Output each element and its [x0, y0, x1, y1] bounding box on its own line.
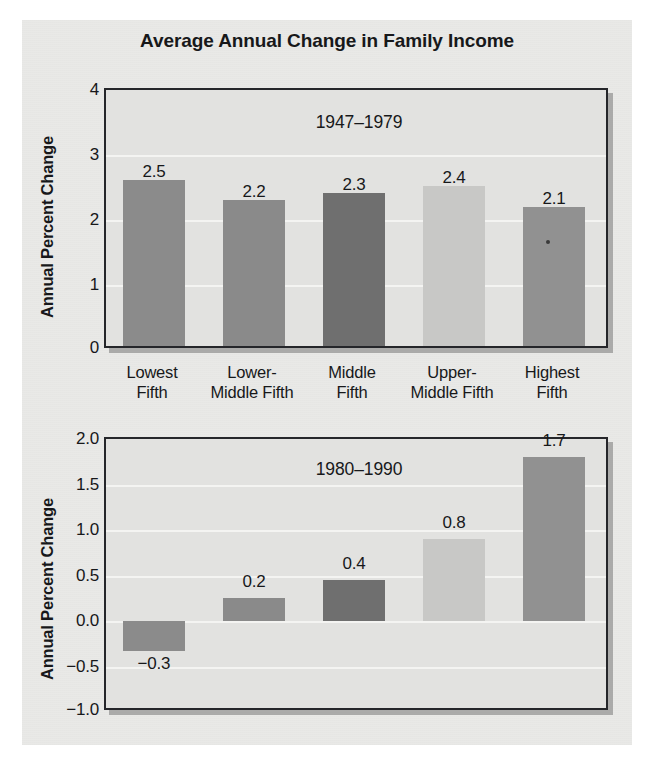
bar-highest-fifth	[523, 207, 585, 346]
category-line-1: Highest	[525, 362, 580, 382]
bar-middle-fifth	[323, 193, 385, 346]
bar-value-middle-fifth: 2.3	[342, 175, 365, 195]
category-line-1: Lowest	[126, 362, 177, 382]
y-tick-bottom-0-0: 0.0	[76, 611, 99, 631]
category-line-1: Middle	[328, 362, 375, 382]
category-line-2: Fifth	[126, 382, 177, 402]
chart-subtitle-top: 1947–1979	[316, 112, 403, 133]
y-tick-bottom-minus-1-0: −1.0	[66, 700, 99, 720]
category-line-2: Middle Fifth	[211, 382, 294, 402]
y-tick-bottom-2-0: 2.0	[76, 429, 99, 449]
y-tick-top-2: 2	[90, 210, 99, 230]
y-tick-top-0: 0	[90, 338, 99, 358]
y-tick-top-3: 3	[90, 145, 99, 165]
y-axis-title-bottom: Annual Percent Change	[38, 498, 57, 680]
bar-value-lower-middle-fifth: 2.2	[242, 182, 265, 202]
category-line-2: Fifth	[328, 382, 375, 402]
bar-value-lowest-fifth: −0.3	[138, 654, 171, 674]
bar-value-lowest-fifth: 2.5	[142, 162, 165, 182]
bar-value-lower-middle-fifth: 0.2	[242, 572, 265, 592]
scan-speck	[546, 240, 550, 244]
bar-lowest-fifth	[123, 621, 185, 651]
bar-value-upper-middle-fifth: 2.4	[442, 168, 465, 188]
bar-lower-middle-fifth	[223, 200, 285, 346]
category-label-lowest-fifth: Lowest Fifth	[126, 362, 177, 402]
category-label-lower-middle-fifth: Lower- Middle Fifth	[211, 362, 294, 402]
bar-lower-middle-fifth	[223, 598, 285, 621]
bar-value-highest-fifth: 1.7	[542, 431, 565, 451]
bar-value-upper-middle-fifth: 0.8	[442, 513, 465, 533]
y-tick-top-4: 4	[90, 80, 99, 100]
figure-title: Average Annual Change in Family Income	[0, 30, 654, 52]
y-tick-bottom-1-0: 1.0	[76, 520, 99, 540]
y-tick-bottom-minus-0-5: −0.5	[66, 657, 99, 677]
bar-value-highest-fifth: 2.1	[542, 189, 565, 209]
chart-subtitle-bottom: 1980–1990	[316, 459, 403, 480]
plot-area-top: 4 3 2 1 0 1947–1979 2.5 2.2 2.3 2.4 2.1	[104, 88, 608, 348]
category-label-middle-fifth: Middle Fifth	[328, 362, 375, 402]
category-label-highest-fifth: Highest Fifth	[525, 362, 580, 402]
bar-highest-fifth	[523, 457, 585, 621]
bar-upper-middle-fifth	[423, 186, 485, 346]
category-line-1: Upper-	[411, 362, 494, 382]
gridline-3	[106, 155, 606, 157]
y-tick-bottom-1-5: 1.5	[76, 475, 99, 495]
category-label-upper-middle-fifth: Upper- Middle Fifth	[411, 362, 494, 402]
y-tick-top-1: 1	[90, 275, 99, 295]
bar-lowest-fifth	[123, 180, 185, 346]
category-line-1: Lower-	[211, 362, 294, 382]
plot-area-bottom: 2.0 1.5 1.0 0.5 0.0 −0.5 −1.0 1980–1990 …	[104, 437, 608, 710]
category-line-2: Fifth	[525, 382, 580, 402]
bar-value-middle-fifth: 0.4	[342, 554, 365, 574]
y-axis-title-top: Annual Percent Change	[38, 136, 57, 318]
gridline-minus-0-5	[106, 667, 606, 669]
bar-upper-middle-fifth	[423, 539, 485, 621]
y-tick-bottom-0-5: 0.5	[76, 566, 99, 586]
bar-middle-fifth	[323, 580, 385, 621]
category-line-2: Middle Fifth	[411, 382, 494, 402]
